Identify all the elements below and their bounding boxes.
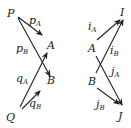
- node-label-left-A: A: [46, 39, 55, 52]
- node-label-right-A: A: [87, 42, 96, 55]
- arrow-right-iA: [97, 20, 120, 40]
- node-label-left-Q: Q: [6, 111, 15, 124]
- node-label-left-B: B: [46, 74, 55, 87]
- labels-layer: pApBqAqBPQABiAiBjAjBIJAB: [6, 6, 125, 124]
- arrow-label-left-pB: pB: [16, 42, 28, 56]
- arrow-label-right-iB: iB: [110, 44, 119, 58]
- arrow-right-jB: [97, 88, 119, 104]
- arrow-label-left-qA: qA: [16, 72, 28, 86]
- arrow-label-left-pA: pA: [29, 14, 41, 28]
- arrow-label-right-jA: jA: [108, 65, 119, 79]
- node-label-right-B: B: [87, 75, 96, 88]
- arrows-layer: [18, 17, 123, 109]
- arrow-label-right-jB: jB: [93, 98, 105, 112]
- arrow-label-right-iA: iA: [88, 20, 97, 34]
- node-label-left-P: P: [6, 7, 15, 20]
- arrow-label-left-qB: qB: [29, 97, 41, 111]
- node-label-right-I: I: [119, 6, 125, 19]
- flow-diagram: pApBqAqBPQABiAiBjAjBIJAB: [0, 0, 131, 128]
- node-label-right-J: J: [116, 110, 123, 123]
- arrow-right-jA: [96, 56, 122, 105]
